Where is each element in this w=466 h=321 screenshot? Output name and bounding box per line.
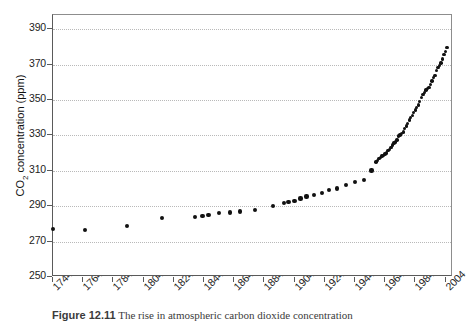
data-point	[383, 152, 386, 155]
data-point	[430, 79, 433, 82]
data-point	[433, 74, 436, 77]
data-point	[432, 76, 435, 79]
data-point	[405, 124, 408, 127]
data-point	[395, 138, 398, 141]
data-point	[200, 214, 204, 218]
data-point	[228, 210, 232, 214]
y-axis-tick-label: 250	[18, 269, 46, 281]
data-point	[380, 154, 383, 157]
gridline	[53, 100, 451, 101]
data-point	[397, 134, 400, 137]
data-point	[389, 146, 392, 149]
data-point	[286, 200, 290, 204]
data-point	[344, 183, 348, 187]
data-point	[386, 149, 389, 152]
data-point	[271, 204, 275, 208]
data-point	[369, 168, 373, 172]
data-points-layer	[53, 15, 451, 275]
data-point	[423, 91, 426, 94]
data-point	[442, 53, 445, 56]
data-point	[217, 211, 221, 215]
y-axis-title-main: CO	[14, 180, 26, 197]
data-point	[417, 103, 420, 106]
data-point	[292, 199, 296, 203]
data-point	[160, 216, 164, 220]
data-point	[335, 186, 339, 190]
y-axis-tick-label: 390	[18, 21, 46, 33]
data-point	[429, 83, 432, 86]
data-point	[304, 194, 308, 198]
y-axis-tick-label: 290	[18, 198, 46, 210]
data-point	[125, 224, 129, 228]
data-point	[402, 130, 405, 133]
data-point	[427, 86, 430, 89]
data-point	[374, 160, 377, 163]
figure-caption-label: Figure 12.11	[52, 309, 116, 321]
data-point	[238, 209, 242, 213]
data-point	[445, 46, 448, 49]
data-point	[206, 213, 210, 217]
data-point	[379, 156, 382, 159]
data-point	[408, 118, 411, 121]
data-point	[435, 69, 438, 72]
data-point	[400, 132, 403, 135]
data-point	[441, 57, 444, 60]
gridline	[53, 206, 451, 207]
data-point	[409, 116, 412, 119]
data-point	[391, 143, 394, 146]
data-point	[412, 111, 415, 114]
gridline	[53, 65, 451, 66]
y-axis-tick-label: 270	[18, 234, 46, 246]
data-point	[327, 188, 331, 192]
data-point	[436, 66, 439, 69]
data-point	[424, 88, 427, 91]
data-point	[298, 196, 302, 200]
data-point	[394, 140, 397, 143]
data-point	[418, 100, 421, 103]
y-axis-tick-label: 350	[18, 92, 46, 104]
data-point	[421, 93, 424, 96]
data-point	[439, 61, 442, 64]
gridline	[53, 171, 451, 172]
data-point	[193, 215, 197, 219]
data-point	[83, 228, 87, 232]
figure-caption: Figure 12.11 The rise in atmospheric car…	[52, 309, 452, 321]
y-axis-title-rest: concentration (ppm)	[14, 75, 26, 176]
gridline	[53, 29, 451, 30]
y-axis-tick-label: 310	[18, 163, 46, 175]
data-point	[403, 127, 406, 130]
data-point	[420, 96, 423, 99]
data-point	[253, 208, 257, 212]
data-point	[362, 178, 366, 182]
figure-caption-text: The rise in atmospheric carbon dioxide c…	[118, 309, 353, 321]
data-point	[398, 133, 401, 136]
data-point	[385, 151, 388, 154]
data-point	[282, 201, 286, 205]
plot-area	[52, 14, 452, 276]
data-point	[388, 148, 391, 151]
gridline	[53, 242, 451, 243]
data-point	[415, 106, 418, 109]
gridline	[53, 135, 451, 136]
data-point	[438, 64, 441, 67]
data-point	[414, 108, 417, 111]
data-point	[312, 193, 316, 197]
y-axis-title-subscript: 2	[21, 176, 30, 180]
data-point	[377, 157, 380, 160]
data-point	[406, 122, 409, 125]
data-point	[51, 227, 55, 231]
data-point	[320, 191, 324, 195]
figure-container: CO2 concentration (ppm) 3903703503303102…	[0, 0, 466, 321]
y-axis-tick-label: 370	[18, 57, 46, 69]
gridlines	[53, 15, 451, 275]
data-point	[392, 141, 395, 144]
data-point	[353, 180, 357, 184]
data-point	[382, 154, 385, 157]
data-point	[444, 50, 447, 53]
y-axis-tick-label: 330	[18, 127, 46, 139]
data-point	[426, 87, 429, 90]
data-point	[376, 159, 379, 162]
data-point	[411, 114, 414, 117]
